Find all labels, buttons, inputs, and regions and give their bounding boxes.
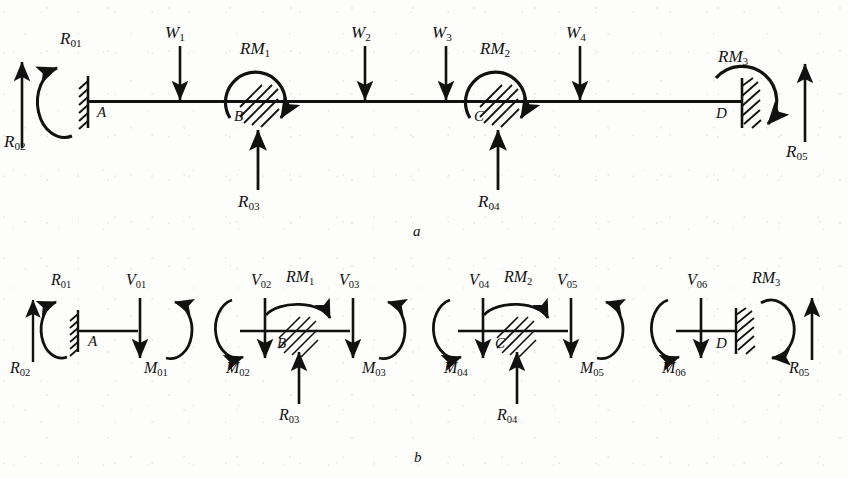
label-W3: W3	[432, 24, 452, 43]
support-A-wall	[79, 76, 88, 129]
label-RM2-b: RM2	[504, 269, 532, 288]
moment-M01-arc	[166, 302, 192, 359]
label-M05: M05	[580, 360, 604, 379]
panel-b-group	[33, 298, 812, 404]
label-R05-b: R05	[789, 360, 809, 379]
label-V06: V06	[687, 272, 707, 291]
reaction-R01-arc-a	[37, 68, 72, 137]
label-M03: M03	[362, 360, 386, 379]
label-node-C-b: C	[495, 336, 505, 351]
reaction-R01-arc-b	[41, 302, 67, 358]
label-V05: V05	[557, 272, 577, 291]
segment-3-group	[433, 298, 623, 404]
label-W1: W1	[165, 24, 185, 43]
label-R01-a: R01	[60, 30, 82, 49]
moment-M02-arc	[215, 300, 243, 358]
label-R05-a: R05	[786, 143, 808, 162]
segment-1-group	[33, 298, 192, 362]
label-R02-a: R02	[4, 133, 26, 152]
label-node-D-b: D	[716, 336, 727, 351]
label-RM3-b: RM3	[752, 270, 780, 289]
moment-M04-arc	[433, 300, 461, 358]
label-node-D-a: D	[716, 106, 727, 121]
label-RM1-b: RM1	[286, 269, 314, 288]
label-node-A-a: A	[97, 105, 106, 120]
restraint-moment-RM2-arc-b	[484, 304, 548, 318]
label-W2: W2	[351, 24, 371, 43]
label-R03-a: R03	[238, 193, 260, 212]
moment-M03-arc	[379, 302, 405, 359]
label-R01-b: R01	[51, 272, 71, 291]
caption-panel-b: b	[414, 450, 422, 465]
label-V03: V03	[339, 272, 359, 291]
support-D-wall	[742, 78, 761, 128]
segment-2-group	[215, 298, 405, 404]
panel-a-group	[22, 46, 805, 190]
moment-M05-arc	[597, 302, 623, 359]
label-RM3-a: RM3	[718, 48, 748, 67]
label-M02: M02	[226, 360, 250, 379]
label-W4: W4	[566, 24, 586, 43]
label-R04-b: R04	[497, 407, 517, 426]
diagram-vector-layer	[0, 0, 848, 478]
figure-canvas: R01 R02 A W1 RM1 B R03 W2 W3 RM2 C R04 W…	[0, 0, 848, 478]
node-C-hinge	[480, 85, 519, 127]
label-V04: V04	[469, 272, 489, 291]
label-RM1-a: RM1	[240, 40, 270, 59]
node-B-hinge	[238, 83, 279, 127]
label-node-B-a: B	[234, 109, 243, 124]
label-node-B-b: B	[277, 336, 286, 351]
label-V02: V02	[251, 272, 271, 291]
support-A-wall-b	[70, 310, 78, 356]
label-node-A-b: A	[88, 334, 97, 349]
label-M06: M06	[662, 360, 686, 379]
restraint-moment-RM3-arc-b	[761, 300, 794, 358]
label-V01: V01	[126, 272, 146, 291]
caption-panel-a: a	[413, 224, 421, 239]
label-M04: M04	[444, 360, 468, 379]
moment-M06-arc	[651, 300, 679, 358]
support-D-wall-b	[736, 308, 755, 354]
restraint-moment-RM1-arc-b	[266, 304, 330, 318]
label-R02-b: R02	[10, 360, 30, 379]
label-M01: M01	[144, 360, 168, 379]
segment-4-group	[651, 298, 812, 360]
label-RM2-a: RM2	[480, 40, 510, 59]
label-node-C-a: C	[474, 109, 484, 124]
label-R04-a: R04	[478, 193, 500, 212]
label-R03-b: R03	[279, 407, 299, 426]
